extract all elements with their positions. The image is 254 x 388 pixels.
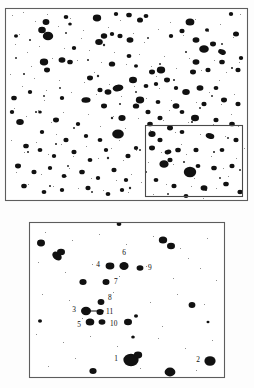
star-label-10: 10 (110, 319, 118, 328)
bottom-panel: 1 2 3 4 5 6 7 8 9 10 11 (30, 222, 225, 378)
figure-svg: 1 2 3 4 5 6 7 8 9 10 11 (0, 0, 254, 388)
star-label-7: 7 (114, 277, 118, 286)
star-label-8: 8 (108, 293, 112, 302)
star-label-11: 11 (106, 307, 113, 316)
top-panel (6, 9, 248, 201)
figure-plate: 1 2 3 4 5 6 7 8 9 10 11 (0, 0, 254, 388)
star-label-1: 1 (114, 354, 118, 363)
star-label-4: 4 (96, 260, 100, 269)
star-label-5: 5 (77, 320, 81, 329)
star-label-3: 3 (72, 305, 76, 314)
star-label-9: 9 (148, 263, 152, 272)
star-label-2: 2 (196, 355, 200, 364)
star-label-6: 6 (122, 248, 126, 257)
top-panel-background (6, 9, 248, 201)
